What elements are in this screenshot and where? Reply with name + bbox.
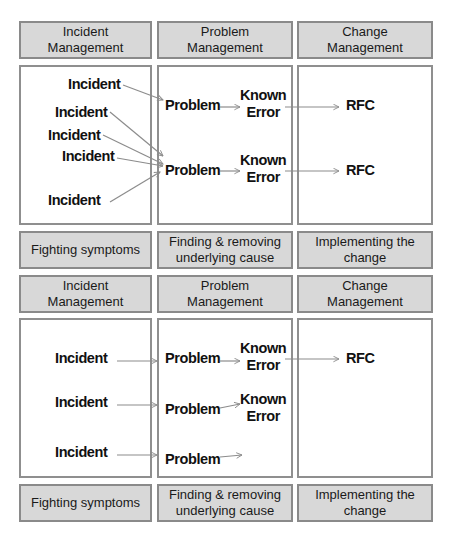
problem-node: Problem	[165, 401, 220, 418]
incident-node: Incident	[55, 350, 107, 367]
header-problem-management: ProblemManagement	[157, 21, 293, 59]
rfc-node: RFC	[346, 162, 375, 179]
incident-node: Incident	[55, 104, 107, 121]
rfc-node: RFC	[346, 350, 375, 367]
footer-implementing-change: Implementing thechange	[297, 231, 433, 269]
problem-node: Problem	[165, 451, 220, 468]
incident-node: Incident	[55, 394, 107, 411]
header-change-management: ChangeManagement	[297, 21, 433, 59]
problem-node: Problem	[165, 97, 220, 114]
footer-fighting-symptoms: Fighting symptoms	[19, 231, 152, 269]
header-change-management: ChangeManagement	[297, 275, 433, 313]
problem-node: Problem	[165, 162, 220, 179]
footer-finding-removing-cause: Finding & removingunderlying cause	[157, 231, 293, 269]
known-error-node: Known Error	[240, 87, 286, 121]
header-incident-management: IncidentManagement	[19, 21, 152, 59]
incident-node: Incident	[48, 192, 100, 209]
rfc-node: RFC	[346, 97, 375, 114]
known-error-node: Known Error	[240, 340, 286, 374]
footer-fighting-symptoms: Fighting symptoms	[19, 484, 152, 522]
header-problem-management: ProblemManagement	[157, 275, 293, 313]
incident-node: Incident	[55, 444, 107, 461]
incident-node: Incident	[48, 127, 100, 144]
incident-node: Incident	[62, 148, 114, 165]
footer-finding-removing-cause: Finding & removingunderlying cause	[157, 484, 293, 522]
problem-node: Problem	[165, 350, 220, 367]
panel-change	[297, 65, 433, 225]
panel-change	[297, 318, 433, 478]
header-incident-management: IncidentManagement	[19, 275, 152, 313]
incident-node: Incident	[68, 76, 120, 93]
known-error-node: Known Error	[240, 391, 286, 425]
known-error-node: Known Error	[240, 152, 286, 186]
footer-implementing-change: Implementing thechange	[297, 484, 433, 522]
